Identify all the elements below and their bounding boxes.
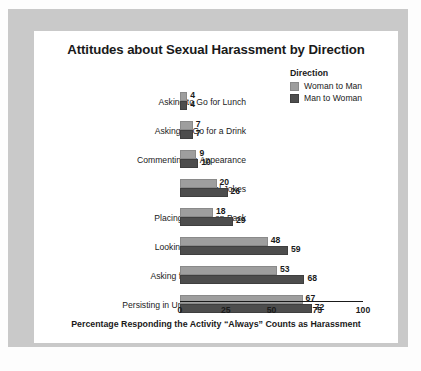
x-tick-label: 75 (312, 305, 322, 315)
bar-row: 7 (180, 121, 363, 130)
bar[interactable] (180, 266, 277, 275)
bar-group: 44 (180, 92, 363, 110)
chart-card: Attitudes about Sexual Harassment by Dir… (34, 31, 398, 343)
bar-value-label: 68 (307, 273, 317, 283)
bar-row: 10 (180, 159, 363, 168)
plot-area: 447791020261829485953686772 (180, 69, 363, 301)
bar[interactable] (180, 92, 187, 101)
bar-row: 59 (180, 246, 363, 255)
x-axis-title: Percentage Responding the Activity “Alwa… (34, 319, 398, 329)
bar[interactable] (180, 159, 198, 168)
x-axis-line (180, 301, 363, 302)
bar[interactable] (180, 121, 193, 130)
bar-row: 68 (180, 275, 363, 284)
figure-frame: Attitudes about Sexual Harassment by Dir… (8, 9, 408, 347)
bar-group: 4859 (180, 237, 363, 255)
bar[interactable] (180, 217, 233, 226)
bar-value-label: 59 (291, 244, 301, 254)
x-tick-label: 50 (267, 305, 277, 315)
bar[interactable] (180, 295, 303, 304)
bar-row: 53 (180, 266, 363, 275)
bar-group: 1829 (180, 208, 363, 226)
bar[interactable] (180, 237, 268, 246)
bar-row: 7 (180, 130, 363, 139)
bar-group: 910 (180, 150, 363, 168)
bar-value-label: 18 (216, 206, 226, 216)
bar-group: 2026 (180, 179, 363, 197)
x-tick-label: 0 (178, 305, 183, 315)
bar[interactable] (180, 188, 228, 197)
bar-value-label: 48 (271, 235, 281, 245)
bar-row: 4 (180, 92, 363, 101)
bar-group: 77 (180, 121, 363, 139)
bar-value-label: 10 (201, 157, 211, 167)
bar[interactable] (180, 179, 217, 188)
x-tick-label: 25 (221, 305, 231, 315)
bar[interactable] (180, 150, 196, 159)
bar[interactable] (180, 101, 187, 110)
bar-value-label: 29 (236, 215, 246, 225)
bar-row: 18 (180, 208, 363, 217)
bar-value-label: 7 (196, 128, 201, 138)
bar-row: 4 (180, 101, 363, 110)
bar[interactable] (180, 130, 193, 139)
bar-group: 5368 (180, 266, 363, 284)
bar-row: 20 (180, 179, 363, 188)
bar[interactable] (180, 208, 213, 217)
x-tick-label: 100 (356, 305, 370, 315)
chart-title: Attitudes about Sexual Harassment by Dir… (34, 42, 398, 57)
bar[interactable] (180, 304, 312, 313)
bar-value-label: 20 (220, 177, 230, 187)
bar-row: 67 (180, 295, 363, 304)
bar-row: 29 (180, 217, 363, 226)
bar-value-label: 26 (231, 186, 241, 196)
bar-row: 26 (180, 188, 363, 197)
bar[interactable] (180, 246, 288, 255)
bar-row: 48 (180, 237, 363, 246)
bar-value-label: 53 (280, 264, 290, 274)
bar[interactable] (180, 275, 304, 284)
bar-value-label: 4 (190, 99, 195, 109)
